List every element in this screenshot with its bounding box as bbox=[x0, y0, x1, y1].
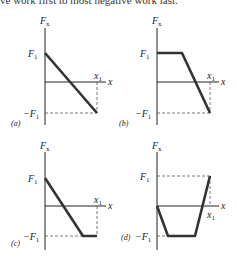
panel-c: Fx F1 −F1 x x1 (c) bbox=[11, 140, 113, 250]
f1-label: F1 bbox=[27, 48, 38, 61]
x-axis-label: x bbox=[220, 76, 226, 87]
panel-tag: (b) bbox=[119, 119, 129, 128]
panel-b: Fx F1 −F1 x x1 (b) bbox=[119, 15, 226, 128]
work-graphs-diagram: Fx F1 −F1 x x1 (a) Fx F1 −F1 x x1 (b) Fx… bbox=[0, 0, 237, 258]
force-curve bbox=[157, 53, 210, 113]
f1-label: F1 bbox=[139, 48, 150, 61]
f1-label: F1 bbox=[139, 171, 150, 184]
neg-f1-label: −F1 bbox=[23, 231, 40, 244]
x1-label: x1 bbox=[206, 209, 215, 222]
x1-label: x1 bbox=[93, 194, 102, 207]
y-axis-label: Fx bbox=[39, 140, 50, 153]
x-axis-label: x bbox=[107, 200, 113, 211]
x-axis-label: x bbox=[220, 200, 226, 211]
x1-label: x1 bbox=[93, 70, 102, 83]
neg-f1-label: −F1 bbox=[135, 108, 152, 121]
x-axis-label: x bbox=[107, 76, 113, 87]
x1-label: x1 bbox=[206, 70, 215, 83]
y-axis-label: Fx bbox=[151, 15, 162, 28]
neg-f1-label: −F1 bbox=[135, 231, 152, 244]
panel-tag: (c) bbox=[11, 239, 20, 248]
neg-f1-label: −F1 bbox=[23, 108, 40, 121]
y-axis-label: Fx bbox=[151, 140, 162, 153]
force-curve bbox=[45, 178, 97, 236]
f1-label: F1 bbox=[27, 173, 38, 186]
force-curve bbox=[45, 53, 97, 113]
y-axis-label: Fx bbox=[39, 15, 50, 28]
panel-a: Fx F1 −F1 x x1 (a) bbox=[11, 15, 113, 128]
panel-tag: (a) bbox=[11, 119, 21, 128]
panel-tag: (d) bbox=[121, 233, 131, 242]
panel-d: Fx F1 −F1 x x1 (d) bbox=[121, 140, 226, 250]
